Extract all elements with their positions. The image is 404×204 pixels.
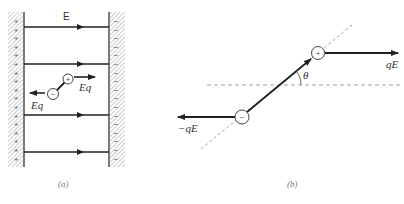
arrowhead-icon — [77, 24, 84, 30]
field-lines — [24, 27, 109, 152]
svg-text:+: + — [66, 75, 71, 84]
arrowhead-icon — [77, 149, 84, 155]
force-label-positive-b: qE — [386, 58, 399, 70]
dipole-moment-vector — [247, 59, 311, 112]
force-label-negative: Eq — [30, 99, 44, 111]
plate-plus-signs: +++++++++++++++++ — [14, 17, 19, 164]
caption-a: (a) — [58, 179, 69, 189]
arrowhead-icon — [77, 61, 84, 67]
panel-a: +++++++++++++++++ −−−−−−−−−−−−−−−−− E — [8, 11, 125, 189]
force-label-negative-b: −qE — [178, 122, 198, 134]
positive-plate: +++++++++++++++++ — [8, 12, 24, 167]
negative-plate: −−−−−−−−−−−−−−−−− — [109, 12, 125, 167]
dipole-a: + − Eq Eq — [30, 74, 95, 111]
angle-label: θ — [303, 69, 309, 81]
svg-text:−: − — [51, 90, 56, 99]
svg-text:−: − — [240, 113, 245, 122]
field-label: E — [63, 11, 70, 22]
minus-sign: − — [114, 155, 119, 164]
arrowhead-icon — [77, 112, 84, 118]
force-label-positive: Eq — [78, 81, 92, 93]
caption-b: (b) — [287, 179, 298, 189]
angle-arc — [296, 71, 301, 85]
plate-minus-signs: −−−−−−−−−−−−−−−−− — [114, 17, 119, 164]
dipole-in-field-figure: +++++++++++++++++ −−−−−−−−−−−−−−−−− E — [0, 0, 404, 204]
svg-text:+: + — [316, 49, 321, 58]
panel-b: θ qE −qE + − (b) — [178, 25, 400, 189]
plus-sign: + — [14, 155, 19, 164]
